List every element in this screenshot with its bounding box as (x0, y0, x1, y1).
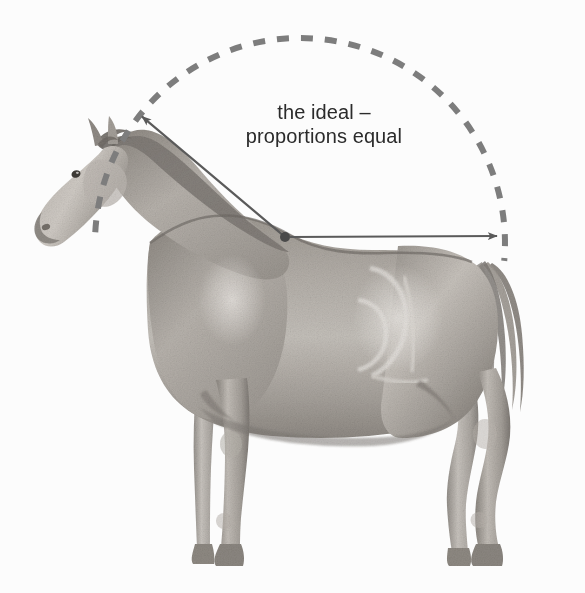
horse-hoof-foreleg-near (214, 544, 244, 566)
arrow-right-to-rump (290, 236, 497, 237)
horse-diagram-canvas (0, 0, 585, 593)
horse-hoof-hind-near (471, 544, 503, 566)
annotation-caption: the ideal – proportions equal (178, 100, 470, 148)
caption-line-2: proportions equal (178, 124, 470, 148)
withers-origin-dot (280, 232, 290, 242)
figure-root: the ideal – proportions equal (0, 0, 585, 593)
caption-line-1: the ideal – (178, 100, 470, 124)
horse-head (34, 116, 128, 247)
shoulder-highlight (198, 254, 266, 346)
horse-illustration (34, 116, 523, 566)
flank-highlight (352, 264, 444, 372)
